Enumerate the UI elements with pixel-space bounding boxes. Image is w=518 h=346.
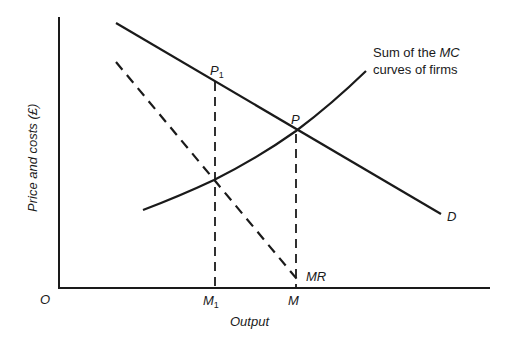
y-axis-label: Price and costs (£): [25, 104, 40, 212]
x-axis-label: Output: [230, 314, 270, 329]
marginal-revenue-curve: [116, 62, 301, 284]
mc-curve-label-line2: curves of firms: [373, 61, 460, 78]
tick-label-m: M: [288, 293, 299, 308]
demand-label: D: [447, 209, 456, 224]
point-label-p: P: [291, 112, 300, 127]
marginal-cost-curve: [143, 71, 366, 210]
origin-label: O: [40, 292, 50, 307]
point-label-p1: P1: [210, 63, 224, 80]
mc-curve-label: Sum of the MC curves of firms: [373, 44, 460, 78]
mr-label: MR: [306, 269, 326, 284]
mc-curve-label-line1: Sum of the MC: [373, 44, 460, 61]
tick-label-m1: M1: [203, 293, 219, 310]
